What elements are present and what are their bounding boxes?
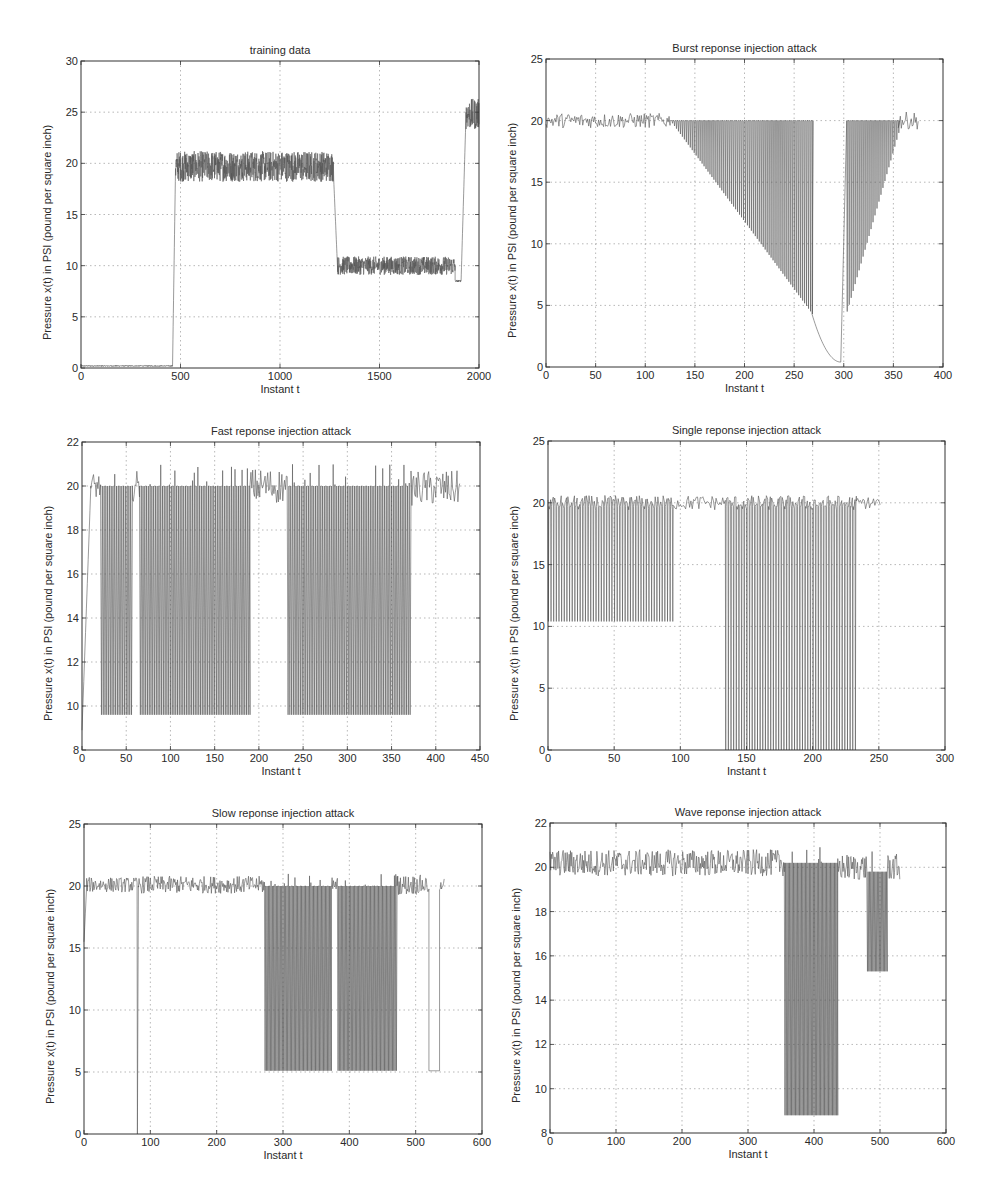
y-tick-label: 5: [75, 1066, 81, 1078]
subplot-title: Single reponse injection attack: [548, 424, 945, 436]
y-tick-label: 20: [531, 115, 543, 127]
x-tick-label: 100: [607, 1135, 625, 1147]
y-tick-label: 20: [535, 861, 547, 873]
y-tick-label: 20: [66, 157, 78, 169]
y-tick-label: 16: [67, 568, 79, 580]
x-tick-label: 2000: [467, 370, 491, 382]
y-axis-label: Pressure x(t) in PSI (pound per square i…: [42, 506, 54, 721]
subplot-title: Slow reponse injection attack: [84, 807, 482, 819]
y-axis-label: Pressure x(t) in PSI (pound per square i…: [506, 123, 518, 338]
y-tick-label: 18: [535, 906, 547, 918]
plot-area: [550, 823, 946, 1133]
x-axis-label: Instant t: [82, 765, 480, 777]
y-tick-label: 10: [531, 238, 543, 250]
y-tick-label: 8: [541, 1127, 547, 1139]
subplot-title: Burst reponse injection attack: [546, 42, 943, 54]
y-tick-label: 16: [535, 950, 547, 962]
y-tick-label: 10: [67, 700, 79, 712]
y-tick-label: 20: [69, 880, 81, 892]
y-tick-label: 10: [533, 620, 545, 632]
x-tick-label: 200: [250, 752, 268, 764]
x-tick-label: 250: [294, 752, 312, 764]
y-tick-label: 15: [531, 176, 543, 188]
x-tick-label: 100: [671, 752, 689, 764]
subplot-wave-attack: Wave reponse injection attack Pressure x…: [550, 823, 946, 1133]
y-tick-label: 0: [537, 361, 543, 373]
data-series-line: [548, 495, 880, 750]
x-tick-label: 0: [79, 752, 85, 764]
x-tick-label: 200: [803, 752, 821, 764]
y-tick-label: 15: [66, 209, 78, 221]
x-tick-label: 300: [936, 752, 954, 764]
x-tick-label: 100: [636, 369, 654, 381]
y-tick-label: 25: [66, 106, 78, 118]
y-tick-label: 18: [67, 524, 79, 536]
y-tick-label: 12: [535, 1038, 547, 1050]
plot-area: [84, 824, 482, 1134]
y-tick-label: 14: [67, 612, 79, 624]
subplot-slow-attack: Slow reponse injection attack Pressure x…: [84, 824, 482, 1134]
x-tick-label: 200: [207, 1136, 225, 1148]
x-tick-label: 1500: [367, 370, 391, 382]
plot-area: [81, 61, 479, 368]
plot-area: [82, 442, 480, 750]
x-axis-label: Instant t: [81, 383, 479, 395]
x-tick-label: 1000: [268, 370, 292, 382]
x-tick-label: 300: [739, 1135, 757, 1147]
data-series-line: [546, 112, 918, 362]
x-tick-label: 0: [78, 370, 84, 382]
y-axis-label: Pressure x(t) in PSI (pound per square i…: [44, 889, 56, 1104]
x-tick-label: 400: [427, 752, 445, 764]
y-axis-label: Pressure x(t) in PSI (pound per square i…: [510, 888, 522, 1103]
x-axis-label: Instant t: [548, 765, 945, 777]
y-tick-label: 25: [533, 435, 545, 447]
x-tick-label: 100: [141, 1136, 159, 1148]
subplot-burst-attack: Burst reponse injection attack Pressure …: [546, 59, 943, 367]
y-tick-label: 5: [537, 299, 543, 311]
y-tick-label: 25: [531, 53, 543, 65]
y-axis-label: Pressure x(t) in PSI (pound per square i…: [41, 124, 53, 339]
plot-area: [548, 441, 945, 750]
subplot-title: Wave reponse injection attack: [550, 806, 946, 818]
x-tick-label: 400: [340, 1136, 358, 1148]
x-tick-label: 50: [120, 752, 132, 764]
x-tick-label: 0: [543, 369, 549, 381]
y-tick-label: 25: [69, 818, 81, 830]
y-tick-label: 8: [73, 744, 79, 756]
y-tick-label: 0: [539, 744, 545, 756]
x-tick-label: 400: [805, 1135, 823, 1147]
x-axis-label: Instant t: [550, 1148, 946, 1160]
y-tick-label: 22: [67, 436, 79, 448]
x-tick-label: 600: [937, 1135, 955, 1147]
y-tick-label: 10: [69, 1004, 81, 1016]
x-tick-label: 450: [471, 752, 489, 764]
x-tick-label: 300: [338, 752, 356, 764]
x-axis-label: Instant t: [546, 382, 943, 394]
subplot-single-attack: Single reponse injection attack Pressure…: [548, 441, 945, 750]
y-tick-label: 15: [69, 942, 81, 954]
y-tick-label: 0: [75, 1128, 81, 1140]
x-tick-label: 600: [473, 1136, 491, 1148]
data-series-line: [550, 847, 900, 1115]
x-tick-label: 50: [608, 752, 620, 764]
x-tick-label: 300: [274, 1136, 292, 1148]
subplot-title: Fast reponse injection attack: [82, 425, 480, 437]
plot-area: [546, 59, 943, 367]
x-tick-label: 250: [785, 369, 803, 381]
y-tick-label: 14: [535, 994, 547, 1006]
y-tick-label: 0: [72, 362, 78, 374]
y-tick-label: 10: [535, 1083, 547, 1095]
x-tick-label: 500: [871, 1135, 889, 1147]
x-axis-label: Instant t: [84, 1149, 482, 1161]
x-tick-label: 400: [934, 369, 952, 381]
y-tick-label: 5: [72, 311, 78, 323]
y-tick-label: 10: [66, 260, 78, 272]
x-tick-label: 150: [737, 752, 755, 764]
x-tick-label: 100: [161, 752, 179, 764]
x-tick-label: 350: [382, 752, 400, 764]
data-series-line: [84, 874, 444, 1134]
x-tick-label: 350: [884, 369, 902, 381]
x-tick-label: 250: [870, 752, 888, 764]
y-tick-label: 15: [533, 559, 545, 571]
x-tick-label: 500: [171, 370, 189, 382]
